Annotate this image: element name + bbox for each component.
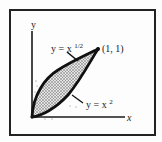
- intersection-dot: [96, 47, 100, 51]
- label-sqrt-exponent: 1/2: [74, 42, 83, 50]
- label-sqrt-base: y = x: [51, 43, 72, 54]
- label-square: y = x 2: [86, 98, 113, 110]
- diagram-canvas: y x y = x 1/2 (1, 1) y = x 2: [0, 0, 162, 142]
- label-sqrt: y = x 1/2: [51, 42, 84, 54]
- label-square-exponent: 2: [109, 98, 113, 106]
- x-axis-label: x: [126, 112, 132, 123]
- label-square-base: y = x: [86, 99, 107, 110]
- diagram-svg: y x y = x 1/2 (1, 1) y = x 2: [0, 0, 162, 142]
- y-axis-label: y: [31, 19, 36, 30]
- leader-line-square: [72, 95, 83, 103]
- intersection-label: (1, 1): [102, 43, 124, 55]
